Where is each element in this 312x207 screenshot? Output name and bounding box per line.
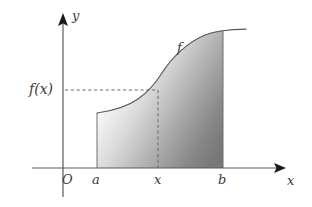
function-value-label: f(x) (29, 82, 53, 96)
variable-point-label-x: x (154, 173, 161, 186)
upper-limit-label-b: b (218, 173, 226, 186)
area-under-curve-figure: y f f(x) O a x b x (0, 0, 312, 207)
x-axis-label: x (287, 174, 294, 187)
y-axis-label: y (72, 9, 79, 22)
shaded-area-under-curve (97, 31, 223, 168)
origin-label: O (62, 173, 73, 186)
curve-label-f: f (177, 41, 182, 54)
lower-limit-label-a: a (92, 173, 100, 186)
